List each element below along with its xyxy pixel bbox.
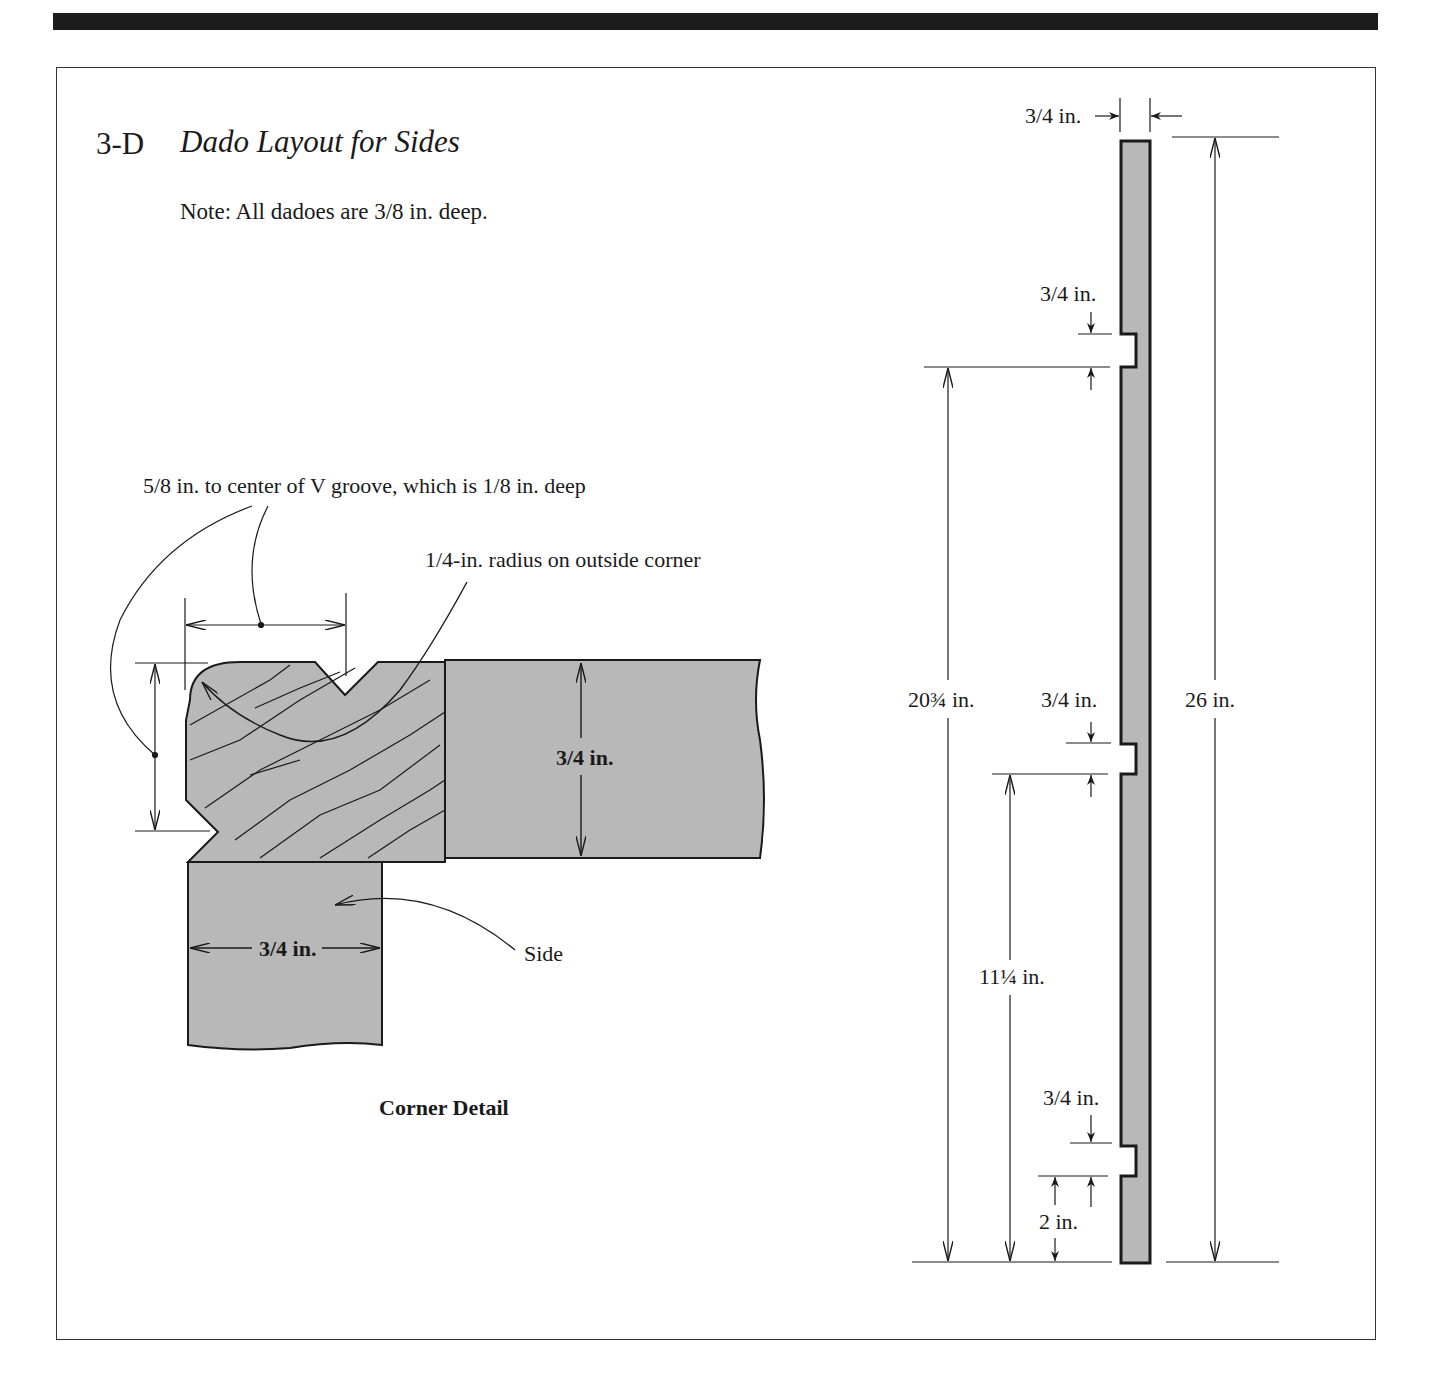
radius-callout-label: 1/4-in. radius on outside corner bbox=[425, 549, 701, 571]
figure-note: Note: All dadoes are 3/8 in. deep. bbox=[180, 200, 488, 223]
side-board-elevation bbox=[1121, 141, 1150, 1263]
figure-title: Dado Layout for Sides bbox=[180, 126, 460, 157]
middle-dado-height-label: 11¼ in. bbox=[976, 966, 1048, 988]
bottom-dado-height-label: 2 in. bbox=[1036, 1211, 1081, 1233]
side-elevation bbox=[1121, 141, 1150, 1263]
top-thickness-label: 3/4 in. bbox=[553, 747, 616, 769]
corner-detail-caption: Corner Detail bbox=[379, 1097, 509, 1119]
figure-number: 3-D bbox=[96, 128, 144, 159]
side-thickness-label: 3/4 in. bbox=[256, 938, 319, 960]
top-dado-width-label: 3/4 in. bbox=[1040, 283, 1096, 305]
board-thickness-label: 3/4 in. bbox=[1025, 105, 1081, 127]
overall-height-label: 26 in. bbox=[1182, 689, 1238, 711]
side-callout-label: Side bbox=[524, 943, 563, 965]
top-dado-height-label: 20¾ in. bbox=[905, 689, 978, 711]
middle-dado-width-label: 3/4 in. bbox=[1041, 689, 1097, 711]
v-groove-callout-label: 5/8 in. to center of V groove, which is … bbox=[143, 475, 586, 497]
bottom-dado-width-label: 3/4 in. bbox=[1043, 1087, 1099, 1109]
